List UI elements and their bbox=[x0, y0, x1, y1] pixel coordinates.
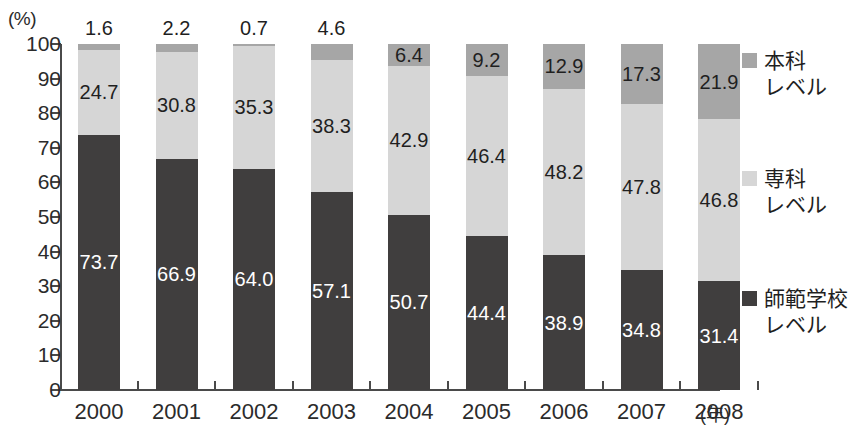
y-axis-tick-label: 20 bbox=[17, 310, 61, 331]
bar-value-label: 57.1 bbox=[311, 281, 353, 301]
bar-value-label: 9.2 bbox=[466, 50, 508, 70]
x-axis-category-label: 2001 bbox=[137, 399, 217, 425]
y-axis-unit-label: (%) bbox=[8, 8, 36, 30]
bar-value-label: 12.9 bbox=[543, 56, 585, 76]
bar-group: 34.847.817.3 bbox=[621, 44, 663, 390]
bar-value-label: 73.7 bbox=[78, 252, 120, 272]
x-axis-tick bbox=[447, 381, 449, 390]
x-axis-category-label: 2002 bbox=[214, 399, 294, 425]
bar-value-label: 50.7 bbox=[388, 292, 430, 312]
x-axis-tick bbox=[137, 381, 139, 390]
bar-segment bbox=[156, 44, 198, 52]
legend-swatch-icon bbox=[742, 53, 757, 68]
y-axis-tick-label: 60 bbox=[17, 171, 61, 192]
x-axis-category-label: 2003 bbox=[292, 399, 372, 425]
bar-value-label: 38.9 bbox=[543, 313, 585, 333]
y-axis-tick-label: 0 bbox=[17, 379, 61, 400]
bar-group: 73.724.7 bbox=[78, 44, 120, 390]
y-axis-tick-label: 70 bbox=[17, 137, 61, 158]
bar-group: 50.742.96.4 bbox=[388, 44, 430, 390]
y-axis-tick-label: 40 bbox=[17, 241, 61, 262]
bar-value-label: 44.4 bbox=[466, 303, 508, 323]
bar-segment bbox=[233, 44, 275, 46]
bar-value-label: 31.4 bbox=[698, 326, 740, 346]
bar-value-label: 47.8 bbox=[621, 177, 663, 197]
bar-value-label: 21.9 bbox=[698, 72, 740, 92]
bar-value-label: 30.8 bbox=[156, 95, 198, 115]
bar-group: 44.446.49.2 bbox=[466, 44, 508, 390]
bar-value-label: 48.2 bbox=[543, 162, 585, 182]
legend-item[interactable]: 専科 レベル bbox=[742, 166, 827, 218]
legend-label: 専科 レベル bbox=[764, 166, 827, 218]
x-axis-tick bbox=[292, 381, 294, 390]
bar-value-label: 66.9 bbox=[156, 264, 198, 284]
bar-value-label: 1.6 bbox=[69, 18, 129, 38]
y-axis-tick-label: 10 bbox=[17, 344, 61, 365]
y-axis-tick-label: 80 bbox=[17, 102, 61, 123]
x-axis-unit-label: (年) bbox=[700, 404, 730, 426]
x-axis-category-label: 2006 bbox=[524, 399, 604, 425]
bar-value-label: 24.7 bbox=[78, 82, 120, 102]
bar-value-label: 46.8 bbox=[698, 190, 740, 210]
legend-swatch-icon bbox=[742, 171, 757, 186]
legend-label: 師範学校 レベル bbox=[764, 286, 848, 338]
bar-value-label: 2.2 bbox=[147, 18, 207, 38]
bar-value-label: 38.3 bbox=[311, 116, 353, 136]
x-axis-tick bbox=[369, 381, 371, 390]
bar-group: 31.446.821.9 bbox=[698, 44, 740, 390]
x-axis-tick bbox=[757, 381, 759, 390]
bar-value-label: 0.7 bbox=[224, 18, 284, 38]
bar-group: 38.948.212.9 bbox=[543, 44, 585, 390]
y-axis-tick-label: 50 bbox=[17, 206, 61, 227]
bar-group: 66.930.8 bbox=[156, 44, 198, 390]
x-axis-tick bbox=[214, 381, 216, 390]
bar-value-label: 17.3 bbox=[621, 64, 663, 84]
bar-value-label: 46.4 bbox=[466, 146, 508, 166]
x-axis-tick bbox=[524, 381, 526, 390]
y-axis-tick-label: 100 bbox=[17, 33, 61, 54]
stacked-bar-chart: (%) 1009080706050403020100 2000200120022… bbox=[0, 0, 857, 443]
x-axis-category-label: 2000 bbox=[59, 399, 139, 425]
bar-segment bbox=[311, 44, 353, 60]
x-axis-tick bbox=[679, 381, 681, 390]
legend-label: 本科 レベル bbox=[764, 48, 827, 100]
bar-value-label: 4.6 bbox=[302, 18, 362, 38]
bar-value-label: 42.9 bbox=[388, 130, 430, 150]
x-axis-tick bbox=[602, 381, 604, 390]
y-axis-tick-label: 30 bbox=[17, 275, 61, 296]
x-axis-category-label: 2007 bbox=[602, 399, 682, 425]
y-axis-tick-label: 90 bbox=[17, 68, 61, 89]
legend-swatch-icon bbox=[742, 291, 757, 306]
bar-value-label: 64.0 bbox=[233, 269, 275, 289]
legend-item[interactable]: 師範学校 レベル bbox=[742, 286, 848, 338]
bar-group: 57.138.3 bbox=[311, 44, 353, 390]
bar-segment bbox=[78, 44, 120, 50]
x-axis-category-label: 2005 bbox=[447, 399, 527, 425]
x-axis-category-label: 2004 bbox=[369, 399, 449, 425]
bar-group: 64.035.3 bbox=[233, 44, 275, 390]
legend-item[interactable]: 本科 レベル bbox=[742, 48, 827, 100]
bar-value-label: 6.4 bbox=[388, 45, 430, 65]
bar-value-label: 35.3 bbox=[233, 97, 275, 117]
bar-value-label: 34.8 bbox=[621, 320, 663, 340]
